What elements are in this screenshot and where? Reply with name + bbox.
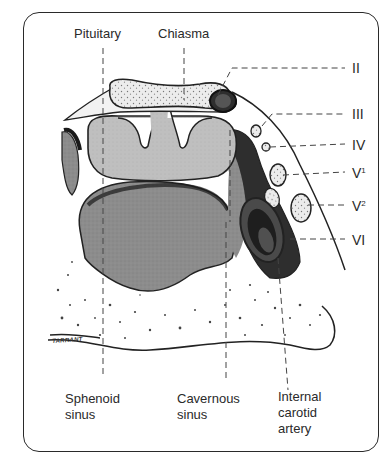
label-cavernous-line2: sinus (177, 407, 240, 423)
maxillary-nerve-v2 (291, 194, 311, 222)
label-nerve-v1-base: V (352, 165, 361, 181)
label-cavernous-line1: Cavernous (177, 391, 240, 407)
label-carotid-line2: carotid (278, 405, 321, 421)
label-carotid-line1: Internal (278, 389, 321, 405)
label-nerve-iii: III (352, 106, 364, 122)
label-sphenoid-line2: sinus (65, 407, 120, 423)
label-nerve-ii: II (352, 60, 360, 76)
trochlear-nerve-iv (262, 143, 270, 151)
label-nerve-vi: VI (352, 232, 365, 248)
label-sphenoid-sinus: Sphenoid sinus (65, 391, 120, 423)
label-carotid-line3: artery (278, 421, 321, 437)
label-pituitary: Pituitary (74, 26, 121, 42)
label-nerve-v2: V2 (352, 198, 366, 214)
label-nerve-v1: V1 (352, 165, 366, 181)
label-nerve-v2-base: V (352, 198, 361, 214)
label-sphenoid-line1: Sphenoid (65, 391, 120, 407)
label-nerve-v1-sup: 1 (361, 166, 365, 175)
label-internal-carotid-artery: Internal carotid artery (278, 389, 321, 437)
label-cavernous-sinus: Cavernous sinus (177, 391, 240, 423)
label-nerve-v2-sup: 2 (361, 199, 365, 208)
label-chiasma: Chiasma (158, 26, 209, 42)
label-nerve-iv: IV (352, 137, 365, 153)
oculomotor-nerve-iii (251, 125, 261, 137)
